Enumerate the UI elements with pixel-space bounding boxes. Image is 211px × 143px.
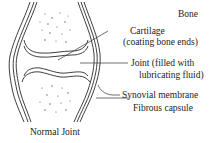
bone-texture-lower bbox=[39, 85, 70, 112]
diagram-title: Normal Joint bbox=[30, 127, 80, 137]
label-joint: Joint (filled with bbox=[131, 58, 195, 69]
label-cartilage: Cartilage bbox=[130, 26, 165, 36]
label-bone: Bone bbox=[178, 9, 198, 19]
upper-bone bbox=[9, 2, 100, 122]
joint-diagram: Bone Cartilage (coating bone ends) Joint… bbox=[0, 0, 211, 143]
label-synovial-membrane: Synovial membrane bbox=[122, 90, 198, 100]
label-cartilage-note: (coating bone ends) bbox=[123, 37, 198, 48]
label-fibrous-capsule: Fibrous capsule bbox=[133, 103, 193, 113]
bone-texture-upper bbox=[40, 12, 71, 42]
label-joint-note: lubricating fluid) bbox=[139, 70, 204, 81]
